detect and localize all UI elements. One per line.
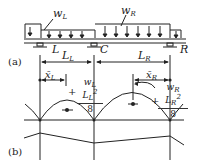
centroid-label-right: x̄R bbox=[146, 70, 157, 82]
panel-a-label: (a) bbox=[8, 57, 22, 67]
centroid-label-left: x̄L bbox=[45, 70, 55, 82]
support-center bbox=[87, 43, 101, 47]
moment-label-right: wR LR2 8 bbox=[158, 83, 188, 119]
support-label-left: L bbox=[52, 44, 59, 55]
support-label-center: C bbox=[100, 44, 108, 55]
moment-label-left: wL LL2 8 bbox=[77, 78, 103, 114]
load-block-left-overhang bbox=[25, 24, 41, 38]
support-label-right: R bbox=[180, 44, 188, 55]
span-label-left: LL bbox=[62, 50, 74, 63]
load-label-right: wR bbox=[121, 5, 136, 18]
support-left bbox=[33, 43, 47, 47]
panel-b-label: (b) bbox=[8, 147, 22, 157]
support-right bbox=[163, 43, 177, 47]
span-label-right: LR bbox=[138, 50, 151, 63]
deflection-line bbox=[24, 133, 184, 145]
load-label-left: wL bbox=[53, 8, 67, 21]
moment-sign-left: + bbox=[68, 87, 76, 97]
